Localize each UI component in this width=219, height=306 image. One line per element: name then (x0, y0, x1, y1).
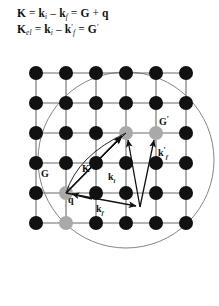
eq1-ki-sub: i (45, 12, 47, 21)
eq1-kf: k (59, 7, 66, 19)
reciprocal-lattice-svg: G K ki q kf G′ k′f (0, 50, 219, 306)
label-k-f-prime: k′f (158, 146, 169, 160)
eq2-equals-2: = (78, 23, 85, 35)
eq1-equals-2: = (71, 7, 78, 19)
eq2-equals-1: = (35, 23, 42, 35)
label-G: G (41, 168, 49, 179)
eq1-lhs: K (17, 7, 26, 19)
eq1-kf-sub: f (66, 12, 68, 21)
label-q: q (68, 194, 74, 205)
eq1-G: G (80, 7, 89, 19)
eq2-G-prime: ′ (97, 23, 99, 32)
eq1-equals-1: = (29, 7, 36, 19)
node-below-origin (59, 216, 73, 230)
eq2-lhs-sub: el (26, 28, 32, 37)
label-K: K (82, 163, 90, 174)
eq2-ki-sub: i (51, 28, 53, 37)
label-K-text: K (82, 163, 90, 174)
equation-line-1: K = ki – kf = G + q (17, 6, 207, 22)
eq1-plus: + (92, 7, 99, 19)
label-G-text: G (41, 168, 49, 179)
eq1-minus: – (50, 7, 56, 19)
figure-page: K = ki – kf = G + q Kel = ki – k′f = G′ (0, 0, 219, 306)
label-k-i: ki (108, 171, 116, 184)
label-k-f: kf (96, 203, 105, 216)
eq2-minus: – (56, 23, 62, 35)
diagram-canvas: G K ki q kf G′ k′f (0, 50, 219, 306)
eq2-kf-sub: f (73, 28, 75, 37)
node-G-prime-tip (149, 126, 163, 140)
label-q-text: q (68, 194, 74, 205)
equation-block: K = ki – kf = G + q Kel = ki – k′f = G′ (17, 6, 207, 38)
vector-q (72, 194, 92, 199)
eq1-q: q (102, 7, 109, 19)
eq2-lhs: K (17, 23, 26, 35)
eq2-G: G (88, 23, 97, 35)
eq2-ki: k (44, 23, 51, 35)
equation-line-2: Kel = ki – k′f = G′ (17, 22, 207, 38)
label-G-prime: G′ (159, 115, 169, 127)
